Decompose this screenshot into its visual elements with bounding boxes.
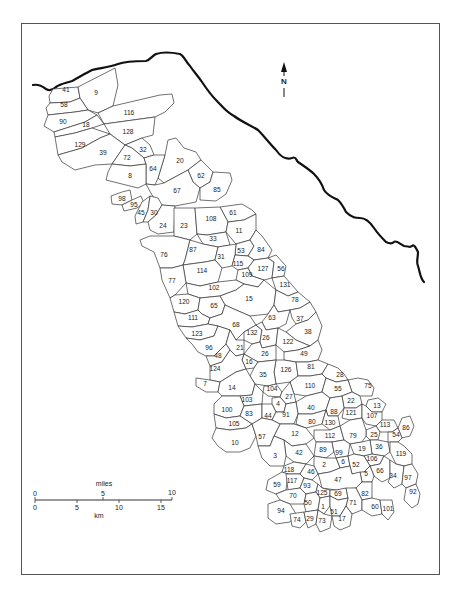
region-label: 8 — [128, 173, 132, 180]
region-label: 22 — [347, 398, 354, 405]
region-label: 6 — [341, 459, 345, 466]
scale-miles-tick: 10 — [168, 489, 176, 496]
region-outline — [106, 164, 146, 188]
region-label: 89 — [319, 447, 326, 454]
region-label: 114 — [197, 268, 208, 275]
region-label: 55 — [334, 386, 341, 393]
scale-miles-tick: 0 — [33, 490, 37, 497]
region-label: 48 — [214, 353, 221, 360]
region-label: 12 — [291, 431, 298, 438]
region-label: 120 — [178, 299, 189, 306]
region-label: 70 — [289, 493, 296, 500]
region-label: 36 — [375, 444, 382, 451]
region-label: 75 — [364, 383, 371, 390]
region-label: 29 — [306, 516, 313, 523]
region-label: 31 — [217, 254, 224, 261]
region-label: 98 — [118, 196, 125, 203]
region-label: 63 — [268, 315, 275, 322]
region-label: 50 — [304, 500, 311, 507]
region-label: 91 — [282, 412, 289, 419]
region-label: 96 — [205, 345, 212, 352]
region-label: 51 — [330, 509, 337, 516]
region-label: 90 — [59, 119, 66, 126]
region-label: 132 — [246, 330, 257, 337]
region-label: 88 — [330, 409, 337, 416]
region-label: 9 — [94, 90, 98, 97]
region-label: 94 — [277, 508, 284, 515]
region-label: 38 — [304, 329, 311, 336]
scale-km-tick: 5 — [75, 504, 79, 511]
region-label: 47 — [334, 477, 341, 484]
region-label: 1 — [321, 504, 325, 511]
region-label: 65 — [210, 303, 217, 310]
region-label: 39 — [99, 150, 106, 157]
region-label: 23 — [180, 223, 187, 230]
region-label: 93 — [303, 483, 310, 490]
region-label: 108 — [205, 216, 216, 223]
scale-km-tick: 15 — [157, 504, 165, 511]
region-label: 68 — [232, 322, 239, 329]
region-label: 112 — [325, 433, 336, 440]
scale-km-tick: 10 — [115, 504, 123, 511]
region-label: 57 — [258, 434, 265, 441]
region-label: 3 — [273, 453, 277, 460]
region-label: 69 — [334, 491, 341, 498]
region-label: 92 — [409, 489, 416, 496]
region-label: 17 — [338, 516, 345, 523]
region-label: 42 — [295, 450, 302, 457]
region-label: 109 — [241, 272, 252, 279]
region-label: 30 — [150, 210, 157, 217]
region-label: 27 — [285, 394, 292, 401]
region-label: 95 — [130, 202, 137, 209]
region-label: 100 — [221, 407, 232, 414]
region-label: 72 — [123, 155, 130, 162]
region-label: 33 — [209, 236, 216, 243]
scale-miles-label: miles — [96, 480, 112, 487]
region-label: 122 — [282, 339, 293, 346]
region-label: 123 — [191, 331, 202, 338]
region-label: 78 — [291, 297, 298, 304]
region-label: 111 — [188, 315, 198, 322]
region-label: 46 — [307, 469, 314, 476]
region-label: 40 — [307, 405, 314, 412]
region-label: 130 — [324, 420, 335, 427]
north-label: N — [281, 78, 287, 86]
region-label: 44 — [264, 413, 271, 420]
region-label: 56 — [277, 266, 284, 273]
region-label: 71 — [349, 500, 356, 507]
scale-km-tick: 0 — [33, 504, 37, 511]
region-label: 41 — [62, 87, 69, 94]
region-label: 18 — [82, 122, 89, 129]
region-label: 113 — [380, 422, 391, 429]
region-label: 67 — [173, 188, 180, 195]
region-label: 2 — [322, 462, 326, 469]
region-label: 4 — [276, 401, 280, 408]
region-label: 7 — [203, 381, 207, 388]
region-label: 115 — [233, 261, 244, 268]
region-label: 15 — [245, 296, 252, 303]
region-label: 81 — [307, 364, 314, 371]
region-label: 74 — [293, 517, 300, 524]
regions-layer — [44, 68, 420, 532]
region-label: 79 — [349, 433, 356, 440]
region-label: 110 — [305, 383, 316, 390]
region-label: 32 — [139, 147, 146, 154]
region-label: 117 — [287, 478, 298, 485]
region-label: 14 — [228, 385, 235, 392]
region-label: 126 — [280, 367, 291, 374]
region-label: 62 — [197, 173, 204, 180]
region-label: 45 — [137, 210, 144, 217]
region-label: 24 — [159, 223, 166, 230]
region-label: 19 — [358, 446, 365, 453]
region-label: 102 — [208, 285, 219, 292]
region-label: 35 — [259, 372, 266, 379]
region-label: 73 — [318, 518, 325, 525]
region-label: 13 — [373, 403, 380, 410]
region-label: 125 — [316, 490, 327, 497]
region-label: 61 — [229, 210, 236, 217]
region-label: 60 — [371, 504, 378, 511]
region-label: 118 — [284, 467, 295, 474]
region-label: 76 — [160, 252, 167, 259]
region-label: 37 — [296, 316, 303, 323]
region-label: 82 — [361, 491, 368, 498]
